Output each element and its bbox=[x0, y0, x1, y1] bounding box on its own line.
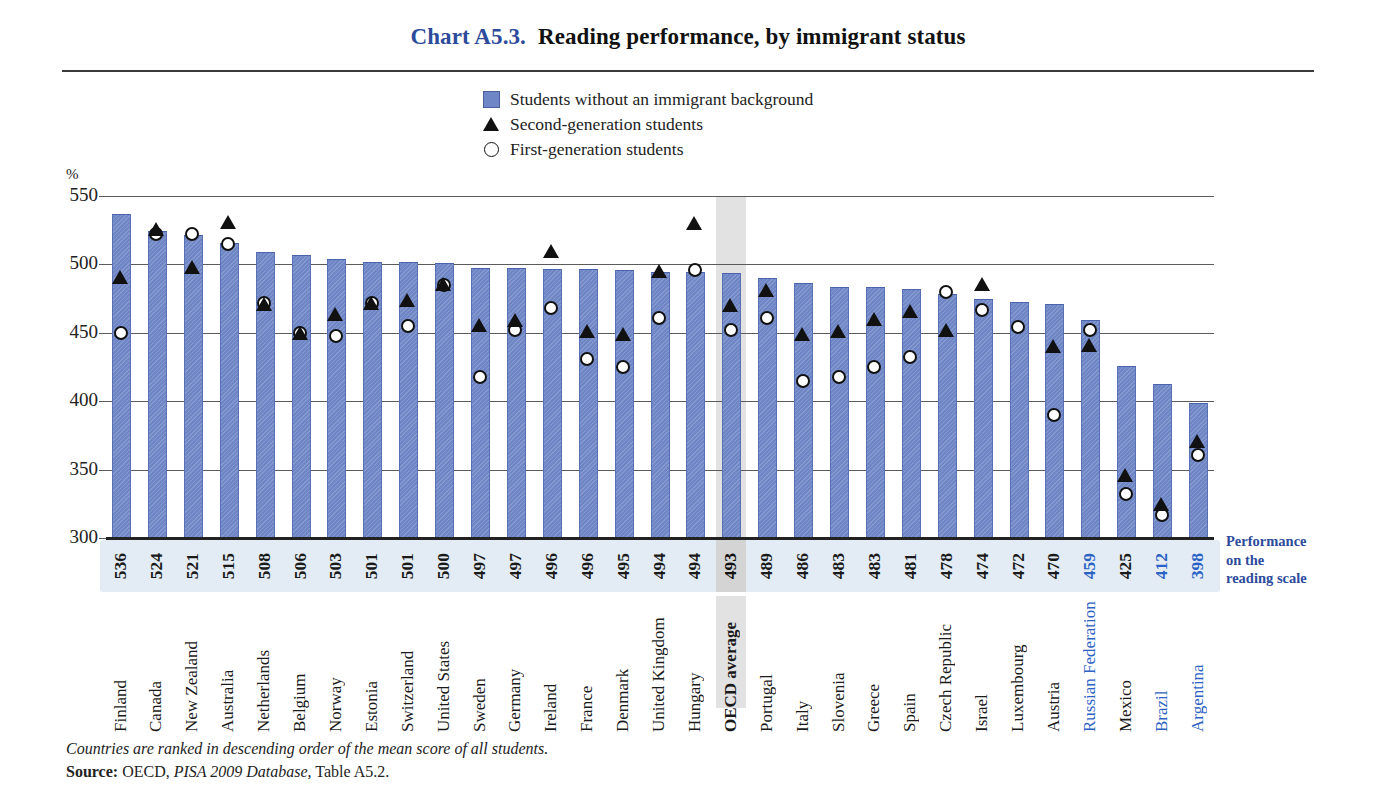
bar-argentina[interactable] bbox=[1189, 403, 1208, 538]
chart-column[interactable] bbox=[1045, 196, 1062, 538]
category-label-cell[interactable]: Denmark bbox=[608, 596, 638, 732]
category-label-cell[interactable]: France bbox=[572, 596, 602, 732]
bar-australia[interactable] bbox=[220, 243, 239, 538]
bar-hungary[interactable] bbox=[686, 272, 705, 538]
category-label-cell[interactable]: Russian Federation bbox=[1075, 596, 1105, 732]
triangle-marker[interactable] bbox=[686, 216, 702, 230]
category-label-cell[interactable]: Hungary bbox=[680, 596, 710, 732]
category-label-cell[interactable]: Australia bbox=[213, 596, 243, 732]
bar-sweden[interactable] bbox=[471, 268, 490, 538]
triangle-marker[interactable] bbox=[1045, 339, 1061, 353]
bar-france[interactable] bbox=[579, 269, 598, 538]
triangle-marker[interactable] bbox=[758, 283, 774, 297]
chart-column[interactable] bbox=[1153, 196, 1170, 538]
triangle-marker[interactable] bbox=[1081, 338, 1097, 352]
bar-canada[interactable] bbox=[148, 231, 167, 538]
bar-united-states[interactable] bbox=[435, 263, 454, 538]
chart-column[interactable] bbox=[220, 196, 237, 538]
circle-marker[interactable] bbox=[221, 237, 235, 251]
chart-column[interactable] bbox=[184, 196, 201, 538]
category-label-cell[interactable]: Austria bbox=[1039, 596, 1069, 732]
circle-marker[interactable] bbox=[1083, 323, 1097, 337]
bar-mexico[interactable] bbox=[1117, 366, 1136, 538]
bar-belgium[interactable] bbox=[292, 255, 311, 538]
triangle-marker[interactable] bbox=[220, 215, 236, 229]
category-label-cell[interactable]: Germany bbox=[500, 596, 530, 732]
circle-marker[interactable] bbox=[652, 311, 666, 325]
bar-finland[interactable] bbox=[112, 214, 131, 538]
category-label-cell[interactable]: Belgium bbox=[285, 596, 315, 732]
category-label-cell[interactable]: Canada bbox=[141, 596, 171, 732]
triangle-marker[interactable] bbox=[543, 244, 559, 258]
category-label-cell[interactable]: Argentina bbox=[1183, 596, 1213, 732]
chart-column[interactable] bbox=[1117, 196, 1134, 538]
bar-germany[interactable] bbox=[507, 268, 526, 538]
chart-column[interactable] bbox=[112, 196, 129, 538]
triangle-marker[interactable] bbox=[1189, 434, 1205, 448]
chart-column[interactable] bbox=[363, 196, 380, 538]
category-label-cell[interactable]: Spain bbox=[895, 596, 925, 732]
triangle-marker[interactable] bbox=[866, 312, 882, 326]
triangle-marker[interactable] bbox=[148, 222, 164, 236]
chart-column[interactable] bbox=[1081, 196, 1098, 538]
chart-column[interactable] bbox=[543, 196, 560, 538]
circle-marker[interactable] bbox=[401, 319, 415, 333]
category-label-cell[interactable]: OECD average bbox=[716, 596, 746, 732]
category-label-cell[interactable]: United States bbox=[429, 596, 459, 732]
bar-oecd-average[interactable] bbox=[722, 273, 741, 538]
category-label-cell[interactable]: Israel bbox=[967, 596, 997, 732]
category-label-cell[interactable]: Luxembourg bbox=[1003, 596, 1033, 732]
category-label-cell[interactable]: New Zealand bbox=[177, 596, 207, 732]
triangle-marker[interactable] bbox=[292, 326, 308, 340]
circle-marker[interactable] bbox=[329, 329, 343, 343]
triangle-marker[interactable] bbox=[579, 324, 595, 338]
triangle-marker[interactable] bbox=[794, 327, 810, 341]
chart-column[interactable] bbox=[435, 196, 452, 538]
circle-marker[interactable] bbox=[616, 360, 630, 374]
category-label-cell[interactable]: Netherlands bbox=[249, 596, 279, 732]
chart-column[interactable] bbox=[471, 196, 488, 538]
category-label-cell[interactable]: United Kingdom bbox=[644, 596, 674, 732]
category-label-cell[interactable]: Switzerland bbox=[393, 596, 423, 732]
chart-column[interactable] bbox=[866, 196, 883, 538]
triangle-marker[interactable] bbox=[327, 307, 343, 321]
triangle-marker[interactable] bbox=[112, 270, 128, 284]
chart-column[interactable] bbox=[758, 196, 775, 538]
circle-marker[interactable] bbox=[688, 263, 702, 277]
triangle-marker[interactable] bbox=[830, 324, 846, 338]
bar-new-zealand[interactable] bbox=[184, 235, 203, 538]
circle-marker[interactable] bbox=[724, 323, 738, 337]
circle-marker[interactable] bbox=[114, 326, 128, 340]
chart-column[interactable] bbox=[399, 196, 416, 538]
category-label-cell[interactable]: Czech Republic bbox=[931, 596, 961, 732]
bar-luxembourg[interactable] bbox=[1010, 302, 1029, 538]
chart-column[interactable] bbox=[686, 196, 703, 538]
triangle-marker[interactable] bbox=[902, 304, 918, 318]
triangle-marker[interactable] bbox=[651, 264, 667, 278]
triangle-marker[interactable] bbox=[615, 327, 631, 341]
chart-column[interactable] bbox=[615, 196, 632, 538]
bar-italy[interactable] bbox=[794, 283, 813, 538]
circle-marker[interactable] bbox=[1047, 408, 1061, 422]
chart-column[interactable] bbox=[1189, 196, 1206, 538]
chart-column[interactable] bbox=[794, 196, 811, 538]
chart-column[interactable] bbox=[651, 196, 668, 538]
category-label-cell[interactable]: Mexico bbox=[1111, 596, 1141, 732]
chart-column[interactable] bbox=[902, 196, 919, 538]
circle-marker[interactable] bbox=[473, 370, 487, 384]
circle-marker[interactable] bbox=[796, 374, 810, 388]
bar-israel[interactable] bbox=[974, 299, 993, 538]
circle-marker[interactable] bbox=[580, 352, 594, 366]
circle-marker[interactable] bbox=[939, 285, 953, 299]
chart-column[interactable] bbox=[722, 196, 739, 538]
category-label-cell[interactable]: Italy bbox=[788, 596, 818, 732]
triangle-marker[interactable] bbox=[184, 260, 200, 274]
triangle-marker[interactable] bbox=[722, 298, 738, 312]
category-label-cell[interactable]: Norway bbox=[321, 596, 351, 732]
category-label-cell[interactable]: Finland bbox=[106, 596, 136, 732]
chart-column[interactable] bbox=[507, 196, 524, 538]
triangle-marker[interactable] bbox=[256, 297, 272, 311]
triangle-marker[interactable] bbox=[974, 277, 990, 291]
triangle-marker[interactable] bbox=[471, 318, 487, 332]
chart-column[interactable] bbox=[327, 196, 344, 538]
